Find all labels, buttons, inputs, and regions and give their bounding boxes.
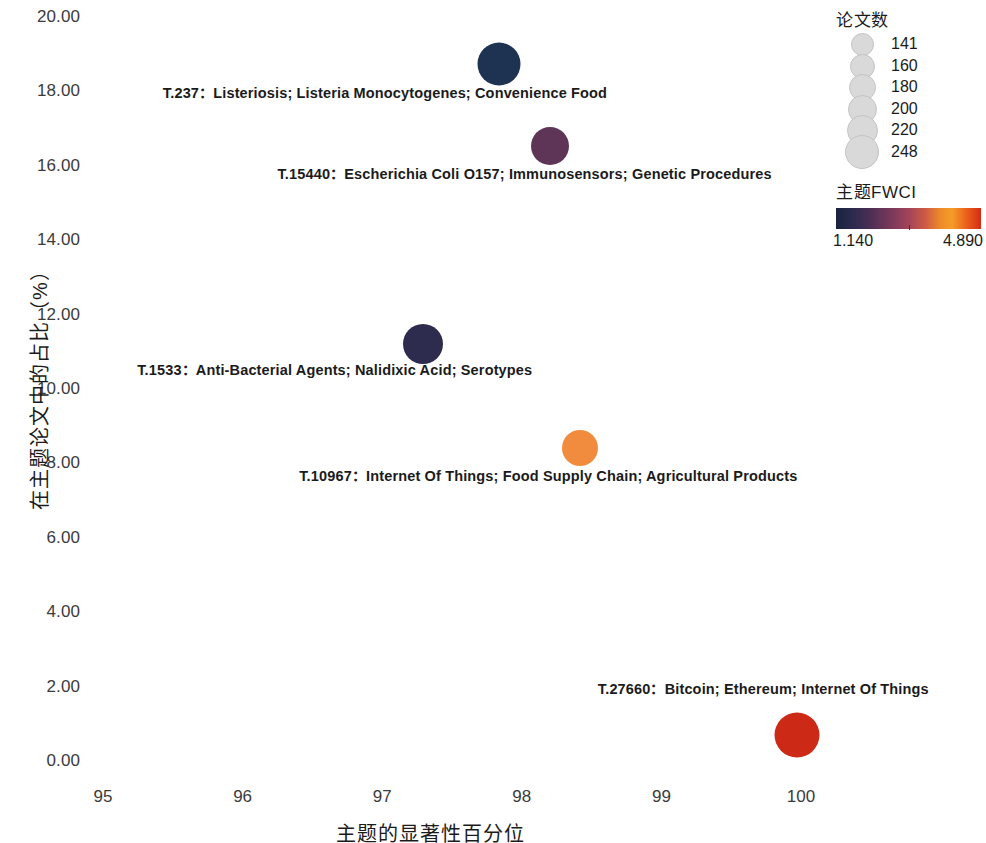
colorbar-gradient <box>836 208 981 229</box>
x-tick-label: 96 <box>213 787 273 807</box>
size-legend-bubble <box>845 135 879 169</box>
x-tick-label: 100 <box>771 787 831 807</box>
size-legend-label: 141 <box>891 35 918 53</box>
size-legend-label: 220 <box>891 121 918 139</box>
colorbar-min-label: 1.140 <box>833 232 873 250</box>
size-legend-label: 248 <box>891 143 918 161</box>
x-tick-label: 95 <box>73 787 133 807</box>
data-point-label: T.237：Listeriosis; Listeria Monocytogene… <box>163 80 607 101</box>
data-point-label: T.27660：Bitcoin; Ethereum; Internet Of T… <box>598 677 929 698</box>
data-point-label: T.15440：Escherichia Coli O157; Immunosen… <box>277 161 771 182</box>
size-legend-title: 论文数 <box>836 6 986 31</box>
data-point[interactable] <box>774 712 819 757</box>
data-point[interactable] <box>562 430 598 466</box>
x-tick-label: 98 <box>492 787 552 807</box>
colorbar-max-label: 4.890 <box>943 232 983 250</box>
x-tick-label: 97 <box>352 787 412 807</box>
colorbar-tick <box>909 225 911 230</box>
x-axis-title: 主题的显著性百分位 <box>0 818 860 843</box>
data-point-label: T.10967：Internet Of Things; Food Supply … <box>299 463 797 484</box>
data-point[interactable] <box>531 127 569 165</box>
size-legend-label: 200 <box>891 100 918 118</box>
x-tick-label: 99 <box>631 787 691 807</box>
color-legend-title: 主题FWCI <box>836 178 982 203</box>
size-legend: 论文数 141160180200220248 <box>836 6 986 172</box>
data-point-label: T.1533：Anti-Bacterial Agents; Nalidixic … <box>137 357 532 378</box>
size-legend-body: 141160180200220248 <box>836 34 986 172</box>
plot-area: T.237：Listeriosis; Listeria Monocytogene… <box>0 0 860 790</box>
size-legend-label: 160 <box>891 57 918 75</box>
color-legend: 主题FWCI 1.140 4.890 <box>836 178 982 250</box>
colorbar-end-labels: 1.140 4.890 <box>833 232 983 250</box>
size-legend-label: 180 <box>891 78 918 96</box>
